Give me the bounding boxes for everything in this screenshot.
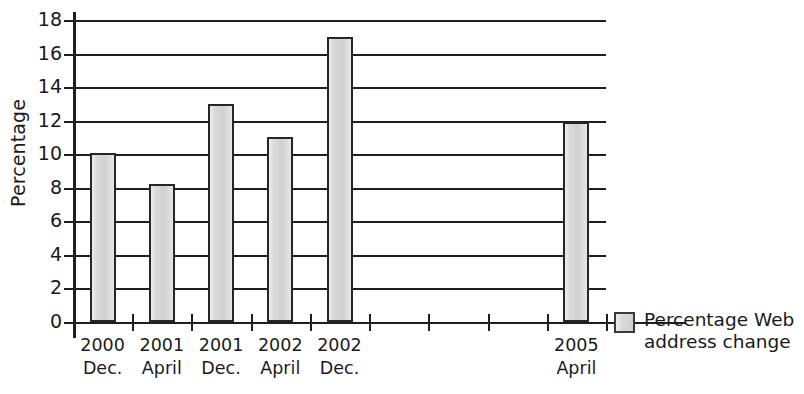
legend-swatch-icon	[614, 312, 635, 333]
x-axis-tick-label: 2002Dec.	[295, 334, 385, 380]
x-axis-line	[66, 322, 686, 324]
x-axis-tick	[251, 314, 253, 331]
x-axis-tick-label-year: 2002	[295, 334, 385, 357]
legend: Percentage Web address change	[614, 309, 804, 353]
y-axis-tick	[64, 288, 73, 290]
y-axis-tick-label: 4	[22, 245, 62, 264]
x-axis-tick-label-month: April	[531, 357, 621, 380]
y-axis-tick-label: 14	[22, 77, 62, 96]
bar	[208, 104, 234, 322]
y-axis-tick	[64, 154, 73, 156]
y-axis-tick-label: 16	[22, 44, 62, 63]
x-axis-tick	[606, 314, 608, 331]
y-axis-tick	[64, 87, 73, 89]
y-axis-tick-label: 18	[22, 10, 62, 29]
bar	[267, 137, 293, 322]
x-axis-tick	[428, 314, 430, 331]
bar	[149, 184, 175, 322]
x-axis-tick	[547, 314, 549, 331]
x-axis-tick	[369, 314, 371, 331]
y-axis-tick	[64, 188, 73, 190]
legend-label-line1: Percentage Web	[644, 309, 794, 330]
bar-chart: Percentage 024681012141618 2000Dec.2001A…	[0, 0, 804, 394]
y-axis-tick	[64, 121, 73, 123]
legend-label-line2: address change	[644, 331, 791, 352]
bar	[90, 153, 116, 322]
y-axis-tick-label: 12	[22, 111, 62, 130]
x-axis-tick	[73, 314, 75, 331]
legend-label: Percentage Web address change	[644, 309, 804, 353]
x-axis-tick	[310, 314, 312, 331]
y-axis-tick	[64, 221, 73, 223]
y-axis-tick	[64, 255, 73, 257]
y-axis-tick-label: 2	[22, 278, 62, 297]
bar	[563, 122, 589, 322]
y-axis-tick	[64, 54, 73, 56]
gridline	[73, 20, 606, 22]
x-axis-tick	[488, 314, 490, 331]
bar	[327, 37, 353, 322]
x-axis-tick-label-month: Dec.	[295, 357, 385, 380]
x-axis-tick	[132, 314, 134, 331]
y-axis-tick-label: 0	[22, 312, 62, 331]
y-axis-tick-label: 6	[22, 211, 62, 230]
x-axis-tick-label: 2005April	[531, 334, 621, 380]
plot-area	[73, 20, 606, 322]
x-axis-tick	[191, 314, 193, 331]
y-axis-tick	[64, 20, 73, 22]
x-axis-tick-label-year: 2005	[531, 334, 621, 357]
y-axis-tick-label: 10	[22, 144, 62, 163]
y-axis-tick-label: 8	[22, 178, 62, 197]
